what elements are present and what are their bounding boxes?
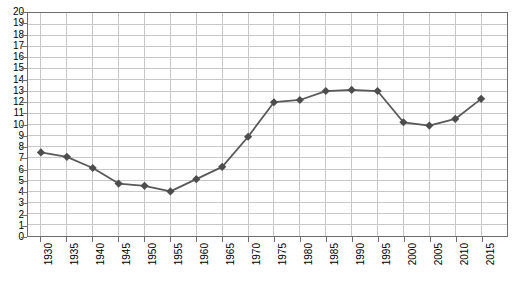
data-point-marker: [192, 175, 200, 183]
plot-area: [27, 12, 508, 237]
x-axis-tick-mark: [248, 237, 249, 242]
data-point-marker: [63, 153, 71, 161]
data-point-marker: [115, 180, 123, 188]
x-axis-tick-label: 2000: [408, 243, 418, 265]
data-point-marker: [296, 96, 304, 104]
data-point-marker: [37, 148, 45, 156]
x-axis-tick-mark: [118, 237, 119, 242]
x-axis-tick-label: 2010: [460, 243, 470, 265]
data-point-marker: [89, 164, 97, 172]
x-axis-tick-mark: [66, 237, 67, 242]
x-axis-tick-mark: [378, 237, 379, 242]
x-axis-tick-mark: [40, 237, 41, 242]
x-axis-tick-label: 1950: [148, 243, 158, 265]
x-axis-tick-mark: [92, 237, 93, 242]
data-point-marker: [166, 187, 174, 195]
x-axis-tick-mark: [352, 237, 353, 242]
data-point-marker: [425, 122, 433, 130]
x-axis-tick-mark: [170, 237, 171, 242]
data-point-marker: [348, 86, 356, 94]
x-axis-tick-label: 1995: [382, 243, 392, 265]
x-axis-tick-mark: [404, 237, 405, 242]
x-axis-tick-label: 1945: [122, 243, 132, 265]
line-chart: 20191817161514131211109876543210 1930193…: [0, 0, 529, 286]
data-point-marker: [322, 87, 330, 95]
x-axis-tick-label: 2015: [486, 243, 496, 265]
x-axis-tick-label: 1970: [252, 243, 262, 265]
x-axis-tick-mark: [482, 237, 483, 242]
x-axis-tick-label: 1990: [356, 243, 366, 265]
x-axis-tick-mark: [456, 237, 457, 242]
x-axis-tick-label: 1960: [200, 243, 210, 265]
x-axis-tick-label: 1935: [70, 243, 80, 265]
x-axis-tick-label: 1980: [304, 243, 314, 265]
x-axis-tick-label: 2005: [434, 243, 444, 265]
x-axis-tick-mark: [274, 237, 275, 242]
x-axis-tick-label: 1965: [226, 243, 236, 265]
x-axis-tick-label: 1930: [44, 243, 54, 265]
x-axis-tick-mark: [326, 237, 327, 242]
x-axis-tick-mark: [196, 237, 197, 242]
x-axis-tick-label: 1940: [96, 243, 106, 265]
series-line: [41, 90, 481, 191]
x-axis-tick-mark: [300, 237, 301, 242]
x-axis-ticks: [27, 237, 508, 242]
x-axis-labels: 1930193519401945195019551960196519701975…: [27, 243, 508, 283]
x-axis-tick-mark: [222, 237, 223, 242]
x-axis-tick-mark: [144, 237, 145, 242]
data-series: [28, 13, 507, 236]
x-axis-tick-mark: [430, 237, 431, 242]
x-axis-tick-label: 1955: [174, 243, 184, 265]
data-point-marker: [140, 182, 148, 190]
x-axis-tick-label: 1975: [278, 243, 288, 265]
x-axis-tick-label: 1985: [330, 243, 340, 265]
